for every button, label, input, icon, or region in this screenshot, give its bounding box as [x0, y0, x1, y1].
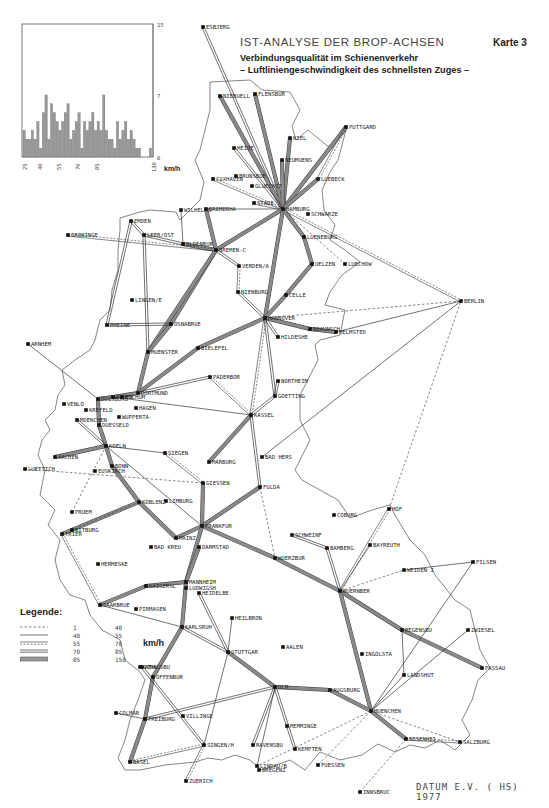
city-marker: [164, 499, 168, 503]
city-label: WUERZBUR: [278, 555, 306, 561]
city-marker: [93, 469, 97, 473]
city-label: DUESSELD: [102, 422, 130, 428]
rail-connection: [139, 502, 176, 538]
city-marker: [237, 264, 241, 268]
rail-connection: [318, 711, 371, 765]
city-label: MARBURG: [212, 459, 236, 465]
rail-connection: [389, 301, 461, 509]
histogram-bar: [56, 122, 58, 157]
city-marker: [308, 327, 312, 331]
city-label: HANNOVER: [268, 315, 296, 321]
rail-connection: [215, 251, 238, 267]
city-label: TRIER: [65, 531, 82, 537]
city-label: GIESSEN: [206, 480, 230, 486]
city-marker: [306, 212, 310, 216]
city-label: MEMMINGE: [290, 723, 318, 729]
city-marker: [387, 507, 391, 511]
city-label: HEIDELBE: [202, 590, 230, 596]
city-label: GOETTING: [278, 393, 306, 399]
histogram-bar: [59, 130, 61, 157]
histogram-y-tick-15: 15: [157, 22, 164, 28]
histogram-bar: [136, 148, 138, 157]
city-marker: [480, 666, 484, 670]
rail-connection: [108, 221, 132, 325]
histogram-x-tick: 85: [94, 163, 100, 170]
histogram-x-tick: 130: [151, 162, 157, 172]
histogram-bar: [125, 122, 127, 157]
histogram-bar: [105, 130, 107, 157]
rail-connection: [239, 291, 266, 317]
city-label: ZUERICH: [189, 778, 213, 784]
rail-connection: [336, 301, 461, 332]
city-label: OLDENBUR: [186, 241, 214, 247]
histogram-x-tick: 25: [22, 163, 28, 170]
city-marker: [276, 379, 280, 383]
city-marker: [316, 763, 320, 767]
city-marker: [343, 262, 347, 266]
city-label: SCHWEINF: [295, 532, 323, 538]
rail-connection: [216, 209, 283, 250]
city-label: ULM: [278, 684, 289, 690]
rail-connection: [143, 235, 147, 352]
city-label: KASSEL: [254, 412, 275, 418]
histogram-x-tick: 40: [37, 163, 43, 170]
city-label: NORTHEIM: [281, 378, 309, 384]
city-label: BREMEN-C: [219, 247, 246, 253]
city-marker: [211, 177, 215, 181]
city-label: INGOLSTA: [365, 651, 393, 657]
city-marker: [174, 536, 178, 540]
city-marker: [84, 408, 88, 412]
city-label: PUTTGARD: [349, 124, 377, 130]
city-marker: [293, 747, 297, 751]
legend-row-thick: 85 150: [20, 655, 150, 663]
city-marker: [197, 591, 201, 595]
city-marker: [111, 395, 115, 399]
city-label: HAGEN: [139, 405, 156, 411]
city-label: KOELN: [109, 443, 126, 449]
city-marker: [328, 688, 332, 692]
rail-connection: [402, 630, 482, 668]
histogram-bar: [89, 122, 91, 157]
city-label: HILDESHE: [281, 334, 309, 340]
legend: Legende: 1 40 40 55 55 70 70 85 85 150 k…: [20, 606, 150, 663]
city-marker: [281, 207, 285, 211]
city-marker: [258, 485, 262, 489]
city-label: LINGEN/E: [135, 297, 163, 303]
city-marker: [96, 562, 100, 566]
histogram-bar: [78, 113, 80, 157]
city-marker: [466, 628, 470, 632]
histogram-bar: [127, 139, 129, 157]
histogram-bar: [138, 148, 140, 157]
city-marker: [273, 685, 277, 689]
city-label: PASSAU: [485, 665, 505, 671]
histogram-bar: [28, 139, 30, 157]
legend-to: 150: [115, 656, 143, 663]
city-label: KAISERSL: [149, 583, 177, 589]
city-label: NUERNBER: [343, 588, 371, 594]
city-label: RAVENSBU: [256, 742, 283, 748]
city-label: KEMPTEN: [298, 746, 322, 752]
city-label: NIEBUELL: [223, 93, 251, 99]
city-marker: [285, 724, 289, 728]
city-label: HEILBRON: [235, 615, 262, 621]
rail-connection: [106, 446, 112, 466]
rail-connection: [145, 235, 149, 352]
rail-connection: [202, 483, 203, 526]
city-label: KIEL: [293, 135, 307, 141]
histogram-bar: [53, 113, 55, 157]
city-label: ZWIESEL: [471, 627, 495, 633]
histogram-bar: [94, 130, 96, 157]
city-label: BAD HERS: [265, 454, 292, 460]
city-label: FULDA: [263, 484, 280, 490]
city-label: SALZBURG: [463, 739, 491, 745]
rail-connection: [181, 628, 227, 653]
rail-connection: [99, 425, 106, 446]
city-label: PADERBOR: [213, 374, 241, 380]
city-marker: [302, 235, 306, 239]
rail-connection: [274, 687, 294, 749]
rail-connection: [209, 415, 251, 462]
city-label: EMDEN: [134, 218, 151, 224]
rail-connection: [198, 318, 265, 348]
city-marker: [66, 233, 70, 237]
city-marker: [117, 415, 121, 419]
